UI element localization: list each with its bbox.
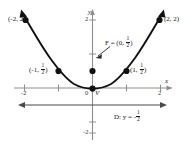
x-tick-label-2: 2 xyxy=(158,90,161,97)
label-focus-prefix: F = (0, xyxy=(105,39,126,47)
label-point-neg1-half-suffix: ) xyxy=(45,66,47,74)
point-1-half xyxy=(123,68,129,74)
y-axis-label: y xyxy=(88,9,91,16)
vertex-label: V xyxy=(95,90,99,97)
label-point-2-2: (2, 2) xyxy=(164,16,179,23)
x-tick-label-neg2: -2 xyxy=(21,90,26,97)
label-directrix-prefix: D: y = - xyxy=(114,113,136,121)
x-axis-label: x xyxy=(165,78,168,85)
point-focus xyxy=(89,68,95,74)
y-tick-label-neg2: -2 xyxy=(83,129,88,136)
y-tick-label-2: 2 xyxy=(85,16,88,23)
label-point-1-half-suffix: ) xyxy=(144,66,146,74)
label-point-1-half: (1, 12) xyxy=(130,63,146,75)
label-focus-suffix: ) xyxy=(130,39,132,47)
label-point-neg1-half: (-1, 12) xyxy=(29,63,48,75)
parabola-figure: (-2, 2) (2, 2) (-1, 12) (1, 12) F = (0, … xyxy=(0,0,185,149)
label-point-neg1-half-prefix: (-1, xyxy=(29,66,41,74)
label-point-neg2-2: (-2, 2) xyxy=(8,16,26,23)
label-focus: F = (0, 12) xyxy=(105,36,133,48)
point-neg1-half xyxy=(55,68,61,74)
label-point-1-half-prefix: (1, xyxy=(130,66,139,74)
y-axis xyxy=(89,9,96,140)
fraction-one-half: 12 xyxy=(136,110,140,122)
parabola-plot-svg xyxy=(0,0,185,149)
origin-label: 0 xyxy=(85,90,88,97)
label-directrix: D: y = -12 xyxy=(114,110,141,122)
point-2-2 xyxy=(156,17,162,23)
